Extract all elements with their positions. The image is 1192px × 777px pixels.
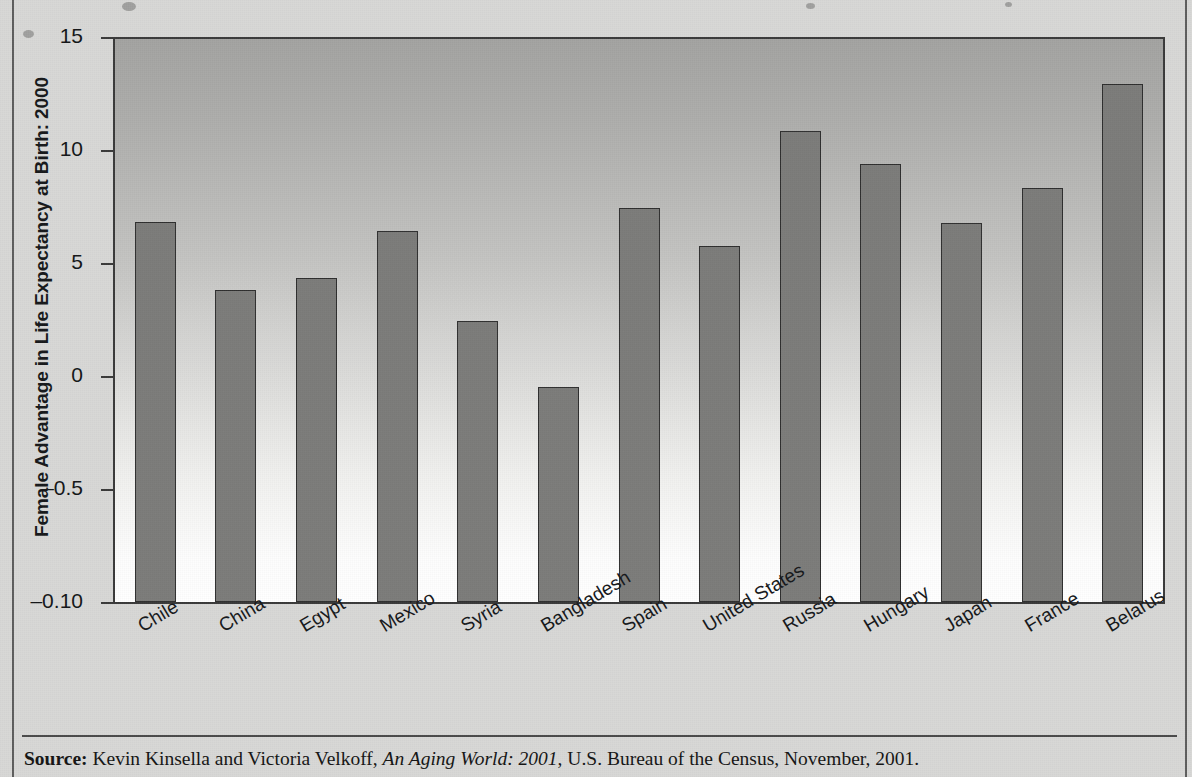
source-divider [22,735,1177,737]
source-work-title: An Aging World: 2001 [383,748,558,769]
bar-france [1022,188,1063,602]
bar-chile [135,222,176,602]
bar-united-states [699,246,740,602]
page-frame-right-rule [1185,0,1187,777]
bar-russia [780,131,821,602]
bar-mexico [377,231,418,602]
bar-bangladesh [538,387,579,602]
scan-speckle [122,2,136,11]
bar-japan [941,223,982,602]
source-label: Source: [24,748,88,769]
y-tick-mark [101,150,113,152]
bar-china [215,290,256,602]
y-tick-label: –0.10 [30,589,83,613]
bar-syria [457,321,498,602]
y-tick-mark [101,376,113,378]
y-tick-label: 5 [71,250,83,274]
y-tick-label: 10 [60,137,83,161]
scan-speckle [1005,2,1012,7]
source-publisher: , U.S. Bureau of the Census, November, 2… [558,748,920,769]
page-frame-left-rule [12,0,14,777]
bar-egypt [296,278,337,602]
bar-spain [619,208,660,602]
y-tick-label: 0 [71,363,83,387]
scan-speckle [23,30,34,38]
source-note: Source: Kevin Kinsella and Victoria Velk… [24,748,919,770]
y-tick-mark [101,37,113,39]
y-tick-mark [101,263,113,265]
y-axis-line [113,37,115,604]
bar-hungary [860,164,901,602]
chart-figure: Female Advantage in Life Expectancy at B… [0,0,1192,777]
y-tick-label: –0.5 [42,476,83,500]
source-authors: Kevin Kinsella and Victoria Velkoff, [88,748,383,769]
y-tick-mark [101,489,113,491]
y-tick-mark [101,602,113,604]
y-tick-label: 15 [60,24,83,48]
bar-belarus [1102,84,1143,602]
x-axis-line [113,602,1165,604]
scan-speckle [806,3,815,9]
y-axis-title: Female Advantage in Life Expectancy at B… [31,0,53,617]
